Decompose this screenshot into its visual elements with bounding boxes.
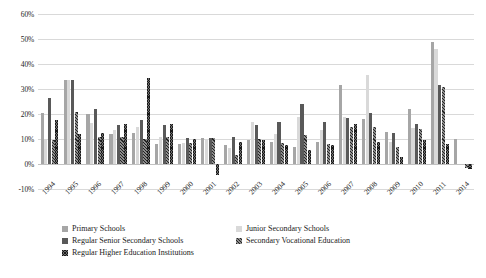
bar-slot (44, 14, 47, 189)
bar (147, 78, 150, 164)
bar-group (405, 14, 428, 189)
bar (101, 133, 104, 164)
bar-slot (55, 14, 58, 189)
legend-item[interactable]: Secondary Vocational Education (236, 236, 442, 245)
legend-item[interactable]: Regular Senior Secondary Schools (62, 236, 230, 245)
bar (350, 127, 353, 165)
bar-slot (457, 14, 460, 189)
bar (446, 144, 449, 164)
bar-slot (304, 14, 307, 189)
y-axis-tick-label: 20% (21, 110, 34, 119)
bar-slot (354, 14, 357, 189)
legend-label: Secondary Vocational Education (246, 236, 350, 245)
bar-slot (293, 14, 296, 189)
bar-group (290, 14, 313, 189)
bar (136, 127, 139, 165)
bar (431, 42, 434, 165)
bar-group (199, 14, 222, 189)
y-axis-tick-label: 30% (21, 85, 34, 94)
bar-group (245, 14, 268, 189)
bar-slot (468, 14, 471, 189)
bar (94, 109, 97, 164)
x-axis-tick: 2009 (382, 189, 405, 223)
bar (468, 164, 471, 169)
bar (163, 125, 166, 164)
bar-slot (235, 14, 238, 189)
bar-slot (258, 14, 261, 189)
bar (438, 85, 441, 164)
legend-item[interactable]: Regular Higher Education Institutions (62, 248, 442, 257)
x-axis-labels: 1994199519961997199819992000200120022003… (38, 189, 474, 223)
chart-container: -10%0%10%20%30%40%50%60% 199419951996199… (0, 0, 486, 278)
bar (216, 164, 219, 175)
bar (239, 142, 242, 165)
bar-slot (117, 14, 120, 189)
bar-slot (186, 14, 189, 189)
bar (262, 140, 265, 164)
bar-slot (408, 14, 411, 189)
bar-slot (446, 14, 449, 189)
bar-slot (377, 14, 380, 189)
bar-slot (285, 14, 288, 189)
bar-slot (52, 14, 55, 189)
bar-slot (415, 14, 418, 189)
bar-slot (431, 14, 434, 189)
legend-item[interactable]: Primary Schools (62, 224, 230, 233)
bar (331, 145, 334, 164)
bar (297, 117, 300, 165)
x-axis-tick: 2010 (405, 189, 428, 223)
bar (251, 122, 254, 165)
bar-group (451, 14, 474, 189)
bar (193, 139, 196, 164)
bar (385, 132, 388, 165)
bar (186, 138, 189, 164)
bar-slot (120, 14, 123, 189)
bar-slot (124, 14, 127, 189)
bar-slot (247, 14, 250, 189)
bar-slot (454, 14, 457, 189)
y-axis-tick-label: 50% (21, 35, 34, 44)
bar-slot (461, 14, 464, 189)
bar (44, 139, 47, 164)
x-axis-tick: 1999 (153, 189, 176, 223)
bar (343, 117, 346, 165)
bar (212, 138, 215, 164)
bar-slot (366, 14, 369, 189)
bar (373, 127, 376, 165)
x-axis-tick: 1994 (38, 189, 61, 223)
bar (78, 134, 81, 164)
bar (113, 130, 116, 164)
bar-slot (400, 14, 403, 189)
bar (201, 138, 204, 164)
bar (170, 124, 173, 164)
bar (182, 143, 185, 164)
bar (285, 145, 288, 164)
x-axis-tick: 2001 (199, 189, 222, 223)
bar (48, 98, 51, 164)
x-axis-tick: 2004 (268, 189, 291, 223)
x-axis-tick: 1995 (61, 189, 84, 223)
bar (120, 137, 123, 165)
bar (419, 129, 422, 164)
bar-slot (362, 14, 365, 189)
legend-item[interactable]: Junior Secondary Schools (236, 224, 442, 233)
bar (442, 87, 445, 165)
bar (247, 140, 250, 164)
bar-slot (339, 14, 342, 189)
x-axis-tick: 2003 (245, 189, 268, 223)
bar (228, 148, 231, 164)
bar (98, 137, 101, 165)
bar (392, 133, 395, 164)
bar-slot (442, 14, 445, 189)
bar (189, 143, 192, 164)
bar-slot (385, 14, 388, 189)
bar (205, 139, 208, 164)
bar (132, 133, 135, 164)
bar-slot (212, 14, 215, 189)
legend-swatch (62, 226, 68, 232)
bar (362, 119, 365, 164)
bar-slot (274, 14, 277, 189)
bar-slot (193, 14, 196, 189)
bar (434, 49, 437, 164)
legend-swatch (236, 238, 242, 244)
